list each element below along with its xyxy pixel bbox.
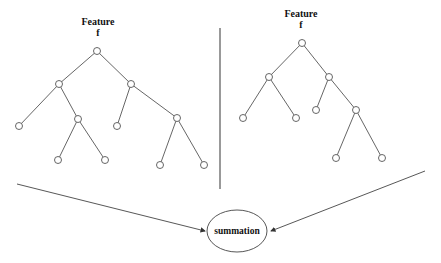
tree-nodes (16, 40, 386, 169)
right-arrow (271, 171, 425, 231)
left-arrow (17, 184, 205, 231)
summation-label: summation (207, 226, 267, 237)
ensemble-diagram (0, 0, 441, 263)
right-tree-edges (243, 43, 382, 158)
left-tree-edges (19, 51, 204, 165)
